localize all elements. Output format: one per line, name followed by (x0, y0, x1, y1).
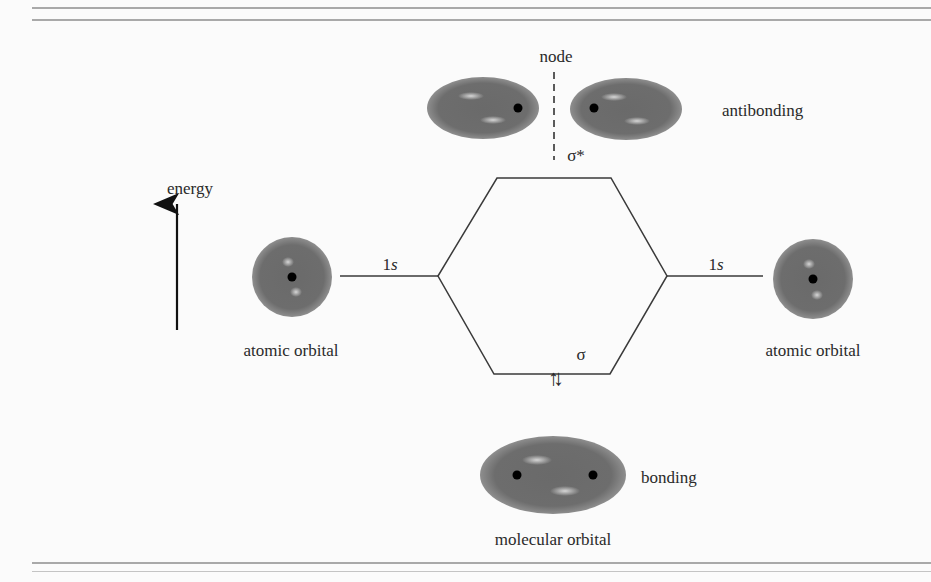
highlight (458, 92, 484, 100)
antibonding-caption: antibonding (722, 101, 804, 120)
highlight (550, 486, 580, 496)
right-atomic-orbital: atomic orbital (766, 239, 861, 360)
bonding-orbital: bonding molecular orbital (480, 436, 697, 549)
highlight (803, 259, 815, 269)
electron-pair-arrows: ↑↓ (548, 365, 562, 390)
left-1s-label: 1s (382, 255, 398, 274)
nucleus-dot (513, 471, 522, 480)
highlight (282, 257, 294, 267)
right-atom-caption: atomic orbital (766, 341, 861, 360)
nucleus-dot (809, 275, 818, 284)
left-atom-caption: atomic orbital (244, 341, 339, 360)
nucleus-dot (589, 471, 598, 480)
energy-axis: energy (167, 179, 213, 330)
molecular-orbital-caption: molecular orbital (495, 530, 612, 549)
nucleus-dot (590, 104, 599, 113)
sigma-star-label: σ* (567, 146, 585, 165)
highlight (480, 116, 506, 124)
highlight (522, 455, 552, 465)
nucleus-dot (514, 104, 523, 113)
mo-diagram: energy atomic orbital 1s 1s atomic orbit… (0, 0, 931, 582)
bonding-caption: bonding (641, 468, 697, 487)
antibonding-orbital: node antibonding σ* (427, 47, 804, 165)
correlation-lines (438, 178, 667, 374)
sigma-label: σ (576, 345, 585, 364)
nucleus-dot (288, 273, 297, 282)
highlight (601, 93, 627, 101)
node-label: node (539, 47, 572, 66)
right-1s-label: 1s (708, 255, 724, 274)
highlight (290, 287, 302, 297)
bonding-ellipse (480, 436, 626, 514)
left-atomic-orbital: atomic orbital (244, 237, 339, 360)
highlight (624, 117, 650, 125)
energy-label: energy (167, 179, 213, 198)
antibonding-right-lobe (570, 78, 682, 140)
highlight (811, 290, 823, 300)
